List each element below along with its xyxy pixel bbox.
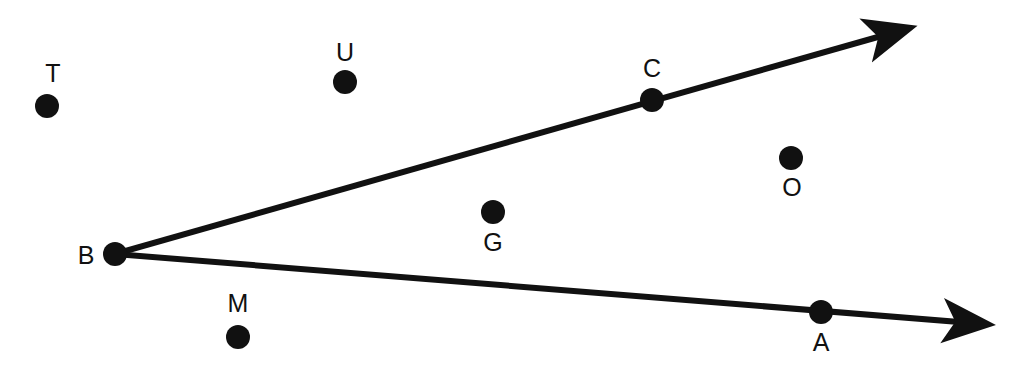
- label-M: M: [228, 289, 249, 317]
- label-O: O: [782, 173, 801, 201]
- point-T: [35, 94, 59, 118]
- ray-BC: [115, 29, 906, 254]
- label-C: C: [643, 54, 661, 82]
- point-G: [481, 200, 505, 224]
- label-U: U: [336, 38, 354, 66]
- label-G: G: [483, 228, 502, 256]
- point-U: [333, 70, 357, 94]
- label-A: A: [813, 328, 830, 356]
- point-A: [809, 300, 833, 324]
- point-B: [103, 242, 127, 266]
- label-T: T: [45, 59, 60, 87]
- label-B: B: [78, 241, 95, 269]
- point-M: [226, 325, 250, 349]
- point-O: [779, 146, 803, 170]
- angle-diagram: T U C O G B M A: [0, 0, 1031, 381]
- diagram-canvas: T U C O G B M A: [0, 0, 1031, 381]
- point-C: [640, 88, 664, 112]
